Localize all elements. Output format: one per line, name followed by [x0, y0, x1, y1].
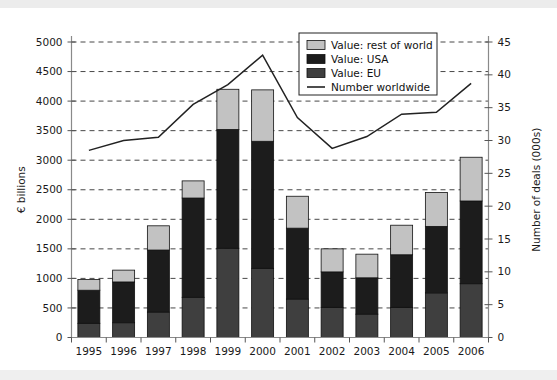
legend-label-1: Value: USA	[331, 53, 389, 65]
x-ticklabel-1998: 1998	[180, 345, 207, 357]
y-ticklabel-right: 15	[498, 233, 511, 245]
y-ticklabel-left: 0	[56, 331, 63, 343]
bar-segment-eu[interactable]	[286, 299, 308, 337]
x-ticklabel-2003: 2003	[354, 345, 381, 357]
bar-segment-rest-of-world[interactable]	[78, 280, 100, 291]
bar-2004[interactable]	[391, 225, 413, 337]
bar-segment-rest-of-world[interactable]	[425, 192, 447, 226]
y-ticklabel-right: 30	[498, 134, 511, 146]
bar-segment-rest-of-world[interactable]	[321, 249, 343, 272]
combo-chart: 0500100015002000250030003500400045005000…	[0, 0, 557, 380]
y-axis-left-ticks: 0500100015002000250030003500400045005000	[36, 36, 76, 344]
bar-segment-eu[interactable]	[321, 307, 343, 337]
bar-segment-eu[interactable]	[147, 312, 169, 337]
bar-segment-rest-of-world[interactable]	[217, 89, 239, 129]
x-ticklabel-1999: 1999	[215, 345, 242, 357]
bar-segment-rest-of-world[interactable]	[460, 157, 482, 201]
x-ticklabel-2001: 2001	[284, 345, 311, 357]
bar-segment-eu[interactable]	[356, 314, 378, 337]
legend-swatch-0	[307, 41, 325, 50]
bar-segment-eu[interactable]	[425, 293, 447, 338]
bar-1997[interactable]	[147, 226, 169, 338]
bar-2002[interactable]	[321, 249, 343, 338]
bar-segment-eu[interactable]	[217, 248, 239, 337]
y-ticklabel-left: 4500	[36, 65, 63, 77]
bar-segment-rest-of-world[interactable]	[286, 196, 308, 228]
bar-segment-usa[interactable]	[252, 141, 274, 268]
x-ticklabel-1997: 1997	[145, 345, 172, 357]
bar-segment-eu[interactable]	[460, 284, 482, 338]
legend-label-3: Number worldwide	[331, 81, 430, 93]
bar-segment-eu[interactable]	[252, 268, 274, 337]
bar-2003[interactable]	[356, 254, 378, 337]
y-ticklabel-right: 45	[498, 36, 511, 48]
y-ticklabel-left: 1500	[36, 242, 63, 254]
x-axis-ticks: 1995199619971998199920002001200220032004…	[72, 338, 489, 357]
bar-1995[interactable]	[78, 280, 100, 338]
bar-segment-rest-of-world[interactable]	[391, 225, 413, 255]
bar-1996[interactable]	[113, 270, 135, 337]
bar-segment-eu[interactable]	[391, 307, 413, 337]
y-ticklabel-left: 500	[42, 302, 62, 314]
y-ticklabel-left: 4000	[36, 95, 63, 107]
y-ticklabel-right: 25	[498, 167, 511, 179]
bar-segment-rest-of-world[interactable]	[147, 226, 169, 250]
y-ticklabel-right: 0	[498, 331, 505, 343]
bar-1999[interactable]	[217, 89, 239, 337]
y-axis-left-title: € billions	[15, 166, 27, 213]
bar-2006[interactable]	[460, 157, 482, 337]
bar-segment-rest-of-world[interactable]	[113, 270, 135, 282]
plot-area-wrapper: 0500100015002000250030003500400045005000…	[0, 0, 557, 380]
x-ticklabel-2002: 2002	[319, 345, 346, 357]
legend-label-2: Value: EU	[331, 67, 381, 79]
x-ticklabel-2004: 2004	[388, 345, 415, 357]
legend: Value: rest of worldValue: USAValue: EUN…	[299, 33, 437, 95]
bar-segment-usa[interactable]	[391, 255, 413, 308]
y-ticklabel-left: 3500	[36, 124, 63, 136]
y-ticklabel-left: 3000	[36, 154, 63, 166]
legend-label-0: Value: rest of world	[331, 39, 433, 51]
x-ticklabel-2000: 2000	[249, 345, 276, 357]
bar-segment-rest-of-world[interactable]	[182, 181, 204, 198]
y-ticklabel-left: 2000	[36, 213, 63, 225]
legend-swatch-2	[307, 69, 325, 78]
bar-segment-rest-of-world[interactable]	[252, 90, 274, 141]
bar-segment-usa[interactable]	[78, 290, 100, 323]
y-ticklabel-right: 5	[498, 298, 505, 310]
bar-segment-eu[interactable]	[113, 323, 135, 338]
bar-2000[interactable]	[252, 90, 274, 338]
bar-1998[interactable]	[182, 181, 204, 338]
bar-segment-eu[interactable]	[182, 297, 204, 337]
bar-segment-usa[interactable]	[217, 129, 239, 248]
bar-segment-usa[interactable]	[460, 201, 482, 284]
y-axis-right-title: Number of deals (000s)	[530, 128, 542, 252]
bar-segment-usa[interactable]	[356, 278, 378, 314]
bar-segment-usa[interactable]	[113, 282, 135, 323]
y-ticklabel-left: 2500	[36, 183, 63, 195]
y-ticklabel-right: 35	[498, 101, 511, 113]
bar-2005[interactable]	[425, 192, 447, 337]
bar-segment-usa[interactable]	[286, 228, 308, 299]
bar-segment-eu[interactable]	[78, 323, 100, 337]
bar-segment-usa[interactable]	[182, 198, 204, 297]
y-ticklabel-left: 1000	[36, 272, 63, 284]
bar-segment-rest-of-world[interactable]	[356, 254, 378, 278]
bar-2001[interactable]	[286, 196, 308, 337]
bar-segment-usa[interactable]	[147, 250, 169, 312]
y-ticklabel-left: 5000	[36, 36, 63, 48]
y-ticklabel-right: 40	[498, 68, 511, 80]
bar-segment-usa[interactable]	[425, 226, 447, 292]
bar-segment-usa[interactable]	[321, 272, 343, 307]
y-ticklabel-right: 20	[498, 200, 511, 212]
chart-figure: 0500100015002000250030003500400045005000…	[0, 0, 557, 380]
y-ticklabel-right: 10	[498, 265, 511, 277]
x-ticklabel-2006: 2006	[458, 345, 485, 357]
x-ticklabel-2005: 2005	[423, 345, 450, 357]
x-ticklabel-1996: 1996	[110, 345, 137, 357]
x-ticklabel-1995: 1995	[76, 345, 103, 357]
legend-swatch-1	[307, 55, 325, 64]
